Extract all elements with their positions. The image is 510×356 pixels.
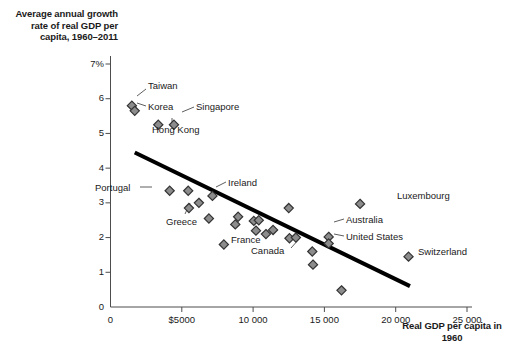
axes	[106, 56, 473, 312]
x-tick-label: 10 000	[213, 314, 293, 325]
x-tick-label: 0	[71, 314, 151, 325]
data-point	[308, 260, 317, 269]
data-point	[194, 198, 203, 207]
point-label-ireland: Ireland	[228, 177, 257, 188]
y-tick-label: 1	[60, 266, 104, 277]
y-tick-label: 0	[60, 301, 104, 312]
point-label-united-states: United States	[346, 231, 403, 242]
y-tick-label: 3	[60, 196, 104, 207]
data-point-france	[219, 240, 228, 249]
point-label-luxembourg: Luxembourg	[397, 190, 450, 201]
y-tick-label: 7%	[60, 58, 104, 69]
point-label-singapore: Singapore	[196, 101, 239, 112]
data-point-greece	[184, 203, 193, 212]
point-label-korea: Korea	[148, 101, 173, 112]
point-label-hong-kong: Hong Kong	[152, 124, 200, 135]
point-label-portugal: Portugal	[95, 182, 130, 193]
scatter-chart-figure: Average annual growth rate of real GDP p…	[0, 0, 510, 356]
point-label-taiwan: Taiwan	[148, 80, 178, 91]
y-tick-label: 5	[60, 127, 104, 138]
x-tick-label: 15 000	[284, 314, 364, 325]
data-point-luxembourg	[355, 199, 364, 208]
data-point	[284, 203, 293, 212]
point-label-france: France	[231, 234, 261, 245]
data-point	[337, 286, 346, 295]
x-tick-label: 20 000	[356, 314, 436, 325]
point-label-greece: Greece	[166, 216, 197, 227]
data-point-switzerland	[404, 252, 413, 261]
x-tick-label: 25 000	[427, 314, 507, 325]
data-point	[184, 186, 193, 195]
point-label-canada: Canada	[251, 245, 284, 256]
point-label-switzerland: Switzerland	[418, 246, 467, 257]
y-tick-label: 6	[60, 92, 104, 103]
data-point-portugal	[165, 186, 174, 195]
data-point	[204, 214, 213, 223]
point-label-australia: Australia	[346, 214, 383, 225]
x-tick-label: $5000	[142, 314, 222, 325]
y-tick-label: 4	[60, 162, 104, 173]
y-tick-label: 2	[60, 231, 104, 242]
data-point	[308, 247, 317, 256]
